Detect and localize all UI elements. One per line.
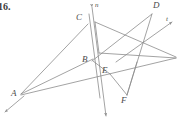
geometry-figure [0,0,178,124]
ray-a-down-left [5,96,24,112]
point-label-E: E [102,66,108,75]
segment-lower-horizontal [99,53,176,58]
segment-d-to-b [92,14,152,61]
ray-a-to-b [21,59,93,94]
line-label-n: n [95,2,99,9]
line-label-t: t [166,16,168,23]
point-label-F: F [121,96,127,105]
point-label-C: C [76,13,82,22]
segment-f-up-right [127,62,137,95]
point-label-B: B [82,55,88,64]
point-label-A: A [11,89,17,98]
point-label-D: D [153,1,160,10]
ray-a-to-c [21,24,88,94]
segment-e-to-f [110,74,127,95]
